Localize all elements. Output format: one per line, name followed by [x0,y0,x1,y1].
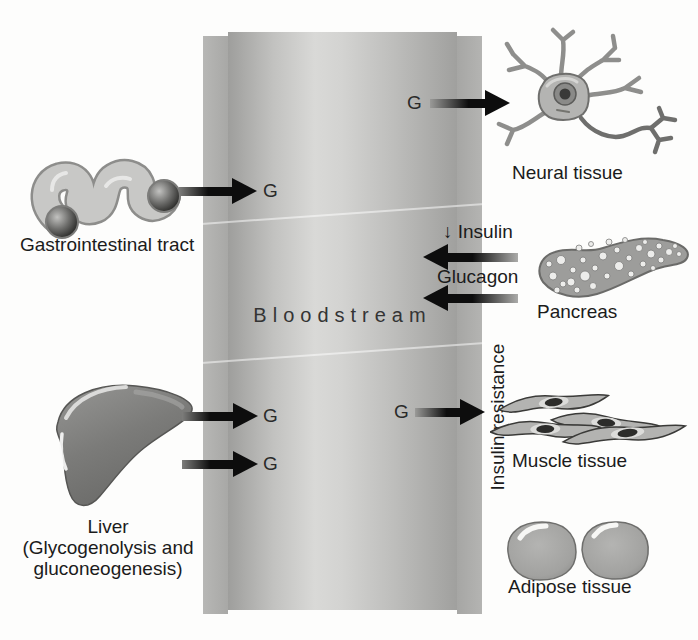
arrowhead-icon [233,451,258,477]
liver-label-line1: Liver [8,516,208,537]
liver-label-line2: (Glycogenolysis and [8,537,208,558]
arrow-glucagon-to-bloodstream [423,285,518,311]
glucagon-label: Glucagon [437,266,518,287]
glucose-symbol-liver-2: G [263,453,278,475]
arrow-liver-to-bloodstream-2 [182,451,258,477]
glucose-symbol-neural: G [407,92,422,114]
liver-label-line3: gluconeogenesis) [8,558,208,579]
glucose-symbol-gi: G [263,180,278,202]
arrow-shaft [182,460,233,469]
arrowhead-icon [233,403,258,429]
muscle-tissue-label: Muscle tissue [512,450,627,471]
glucose-symbol-liver-1: G [263,405,278,427]
arrow-shaft [179,187,232,196]
arrowhead-icon [460,399,485,425]
gi-tract-label: Gastrointestinal tract [20,234,194,255]
liver-label: Liver (Glycogenolysis and gluconeogenesi… [8,516,208,579]
pancreas-icon [533,230,695,310]
adipose-tissue-label: Adipose tissue [508,576,632,597]
arrow-bloodstream-to-muscle [415,399,485,425]
liver-icon [36,372,206,522]
neural-tissue-label: Neural tissue [512,162,623,183]
insulin-label: ↓ Insulin [443,221,513,242]
arrow-shaft [415,408,460,417]
arrowhead-icon [423,285,448,311]
arrow-shaft [448,253,518,262]
arrow-gi-to-bloodstream [179,178,257,204]
glucose-symbol-muscle: G [394,401,409,423]
arrowhead-icon [232,178,257,204]
diagram-canvas: Bloodstream Gastrointestinal tract G G [0,0,698,640]
arrow-shaft [182,412,233,421]
arrow-shaft [448,294,518,303]
neuron-icon [473,26,691,171]
pancreas-label: Pancreas [537,301,617,322]
gastrointestinal-tract-icon [28,150,188,245]
arrow-liver-to-bloodstream-1 [182,403,258,429]
